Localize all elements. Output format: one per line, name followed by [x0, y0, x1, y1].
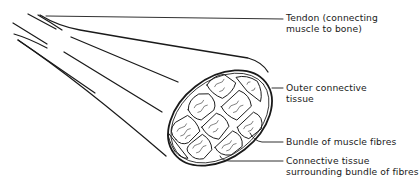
- outer-connective-tissue-ring: [150, 51, 291, 185]
- label-outer-connective-tissue: Outer connective tissue: [286, 82, 367, 104]
- label-line: tissue: [286, 93, 367, 104]
- label-line: Connective tissue: [286, 155, 419, 166]
- label-line: Tendon (connecting: [286, 12, 378, 23]
- tendon-leader: [46, 16, 283, 19]
- fibre-texture: [169, 67, 275, 168]
- label-line: Bundle of muscle fibres: [286, 136, 396, 147]
- cross-section: [150, 51, 291, 185]
- label-line: surrounding bundle of fibres: [286, 166, 419, 177]
- label-line: Outer connective: [286, 82, 367, 93]
- muscle-structure-diagram: Tendon (connecting muscle to bone) Outer…: [0, 0, 420, 186]
- label-connective-tissue-bundle: Connective tissue surrounding bundle of …: [286, 155, 419, 177]
- label-line: muscle to bone): [286, 23, 378, 34]
- label-bundle-of-muscle-fibres: Bundle of muscle fibres: [286, 136, 396, 147]
- leader-lines: [46, 16, 283, 161]
- muscle-body-outline: [18, 15, 268, 156]
- label-tendon: Tendon (connecting muscle to bone): [286, 12, 378, 34]
- tendon-strands: [13, 14, 95, 93]
